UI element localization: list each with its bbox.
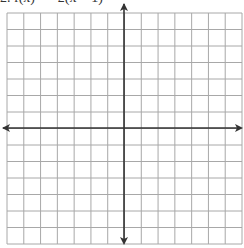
coordinate-grid bbox=[0, 0, 244, 248]
